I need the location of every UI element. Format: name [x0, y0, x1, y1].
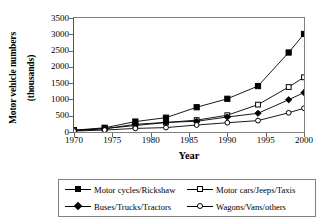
- data-point-marker: [301, 89, 304, 95]
- data-point-marker: [302, 106, 304, 111]
- data-point-marker: [286, 97, 292, 103]
- legend-item[interactable]: Motor cycles/Rickshaw: [65, 181, 187, 198]
- legend-label: Motor cars/Jeeps/Taxis: [216, 185, 295, 195]
- data-point-marker: [194, 123, 199, 128]
- x-tick-mark: [74, 133, 75, 137]
- data-point-marker: [255, 110, 261, 116]
- data-point-marker: [286, 110, 291, 115]
- series-line: [74, 77, 304, 130]
- series-line: [74, 108, 304, 131]
- chart-legend: Motor cycles/RickshawMotor cars/Jeeps/Ta…: [58, 179, 316, 217]
- data-point-marker: [286, 50, 291, 55]
- plot-area: [73, 17, 305, 133]
- data-point-marker: [302, 75, 304, 80]
- x-tick-label: 1995: [246, 136, 286, 145]
- y-tick-label: 2000: [35, 62, 69, 71]
- data-point-marker: [74, 129, 76, 132]
- y-tick-label: 1000: [35, 95, 69, 104]
- series-1: [74, 31, 304, 132]
- x-tick-label: 1975: [92, 136, 132, 145]
- x-tick-mark: [151, 133, 152, 137]
- y-tick-label: 1500: [35, 79, 69, 88]
- legend-item[interactable]: Motor cars/Jeeps/Taxis: [187, 181, 309, 198]
- data-point-marker: [286, 85, 291, 90]
- x-tick-label: 1970: [54, 136, 94, 145]
- x-tick-mark: [112, 133, 113, 137]
- legend-label: Buses/Trucks/Tractors: [94, 202, 171, 212]
- series-line: [74, 34, 304, 130]
- data-point-marker: [164, 125, 169, 130]
- data-point-marker: [255, 83, 260, 88]
- x-tick-label: 1985: [169, 136, 209, 145]
- data-point-marker: [133, 126, 138, 131]
- x-tick-label: 1990: [207, 136, 247, 145]
- x-axis-title: Year: [73, 150, 305, 161]
- data-point-marker: [225, 96, 230, 101]
- x-tick-mark: [189, 133, 190, 137]
- series-canvas: [74, 18, 304, 132]
- data-point-marker: [256, 102, 261, 107]
- x-tick-label: 1980: [131, 136, 171, 145]
- legend-marker-icon: [65, 201, 91, 212]
- y-axis-title-line1: Motor vehicle numbers: [9, 32, 19, 124]
- legend-marker-icon: [65, 184, 91, 195]
- y-tick-label: 3500: [35, 14, 69, 23]
- y-tick-label: 500: [35, 111, 69, 120]
- legend-marker-icon: [187, 201, 213, 212]
- x-tick-mark: [227, 133, 228, 137]
- y-tick-label: 3000: [35, 30, 69, 39]
- chart-figure: Motor vehicle numbers (thousands) 050010…: [0, 0, 326, 224]
- x-tick-label: 2000: [284, 136, 324, 145]
- legend-marker-icon: [187, 184, 213, 195]
- data-point-marker: [194, 105, 199, 110]
- data-point-marker: [102, 128, 107, 132]
- y-tick-label: 2500: [35, 46, 69, 55]
- legend-label: Wagons/Vans/others: [216, 202, 286, 212]
- x-tick-mark: [266, 133, 267, 137]
- legend-label: Motor cycles/Rickshaw: [94, 185, 175, 195]
- data-point-marker: [225, 120, 230, 125]
- data-point-marker: [301, 31, 304, 36]
- legend-item[interactable]: Buses/Trucks/Tractors: [65, 198, 187, 215]
- legend-item[interactable]: Wagons/Vans/others: [187, 198, 309, 215]
- data-point-marker: [256, 118, 261, 123]
- x-tick-mark: [304, 133, 305, 137]
- series-2: [74, 75, 304, 132]
